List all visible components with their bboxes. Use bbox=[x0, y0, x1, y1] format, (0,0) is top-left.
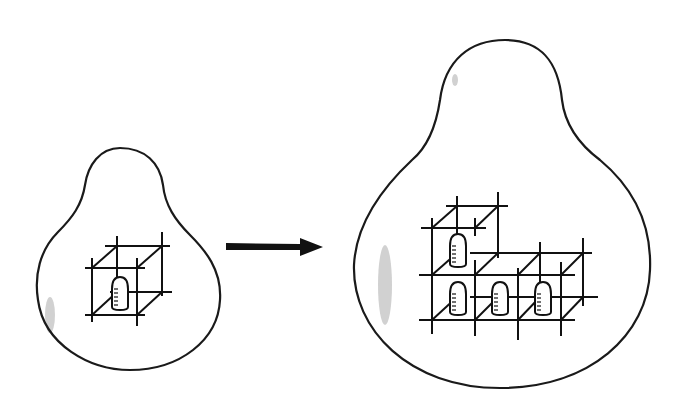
smudge-mark bbox=[452, 74, 458, 86]
arrow-right-icon bbox=[226, 238, 323, 256]
large-cell-group bbox=[354, 40, 650, 388]
bullet-organelle-icon bbox=[450, 282, 466, 315]
bullet-organelle-icon bbox=[535, 282, 551, 315]
small-pear-outline bbox=[37, 148, 220, 370]
cube-cell-cluster bbox=[419, 192, 598, 340]
smudge-mark bbox=[378, 245, 392, 325]
diagram-canvas bbox=[0, 0, 675, 414]
large-pear-outline bbox=[354, 40, 650, 388]
growth-arrow bbox=[226, 238, 323, 256]
bullet-organelle-icon bbox=[450, 234, 466, 267]
single-cube-cell bbox=[85, 232, 172, 326]
bullet-organelle-icon bbox=[112, 277, 128, 310]
bullet-organelle-icon bbox=[492, 282, 508, 315]
small-cell-group bbox=[37, 148, 220, 370]
